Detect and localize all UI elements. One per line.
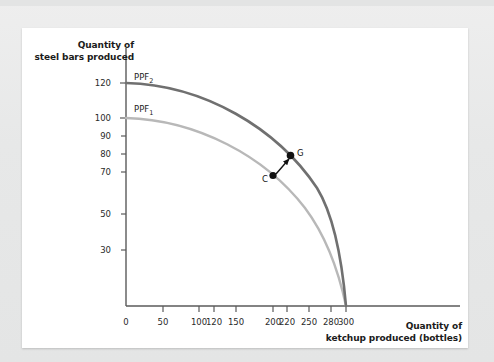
y-axis-title-line1: Quantity of	[78, 40, 134, 50]
ppf2-curve	[126, 83, 346, 306]
x-tick-marks	[163, 306, 346, 312]
x-tick-label-0: 0	[113, 317, 139, 327]
ppf1-curve-label: PPF1	[134, 104, 153, 117]
x-tick-label-150: 150	[223, 317, 249, 327]
y-axis-title: Quantity of steel bars produced	[18, 40, 134, 63]
point-label-g: G	[297, 148, 304, 158]
x-tick-label-50: 50	[150, 317, 176, 327]
y-tick-label-50: 50	[85, 209, 111, 219]
arrow-c-to-g	[276, 159, 289, 174]
y-tick-label-80: 80	[85, 149, 111, 159]
ppf1-curve	[126, 118, 346, 306]
y-tick-label-90: 90	[85, 131, 111, 141]
y-tick-label-100: 100	[85, 113, 111, 123]
x-axis-title-line2: ketchup produced (bottles)	[326, 333, 462, 343]
y-tick-label-70: 70	[85, 167, 111, 177]
figure-panel: Quantity of steel bars produced Quantity…	[22, 28, 468, 348]
screenshot-root: Quantity of steel bars produced Quantity…	[0, 0, 494, 362]
x-tick-label-300: 300	[333, 317, 359, 327]
data-point-g[interactable]	[287, 152, 295, 160]
y-tick-label-30: 30	[85, 245, 111, 255]
y-tick-marks	[120, 83, 126, 250]
y-tick-label-120: 120	[85, 78, 111, 88]
x-axis-title-line1: Quantity of	[406, 321, 462, 331]
y-axis-title-line2: steel bars produced	[35, 52, 134, 62]
data-point-c[interactable]	[269, 172, 276, 179]
ppf2-curve-label: PPF2	[134, 72, 153, 85]
point-label-c: C	[262, 174, 268, 184]
ppf-chart	[22, 28, 468, 348]
